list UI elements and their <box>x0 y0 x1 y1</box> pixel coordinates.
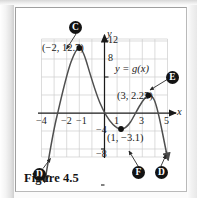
callout-f[interactable]: F <box>132 166 145 179</box>
leader-line-F <box>129 151 138 166</box>
x-tick-label--4: −4 <box>36 115 47 126</box>
figure-card: (−2, 12.7) (3, 2.25) (1, −3.1) y = g(x) … <box>15 7 187 192</box>
leader-line-E <box>150 79 168 90</box>
x-axis-label: x <box>177 106 182 117</box>
page-gutter-left-shadow <box>0 0 14 198</box>
x-tick-label-3: 3 <box>139 115 144 126</box>
y-tick-label-12: 12 <box>108 34 118 45</box>
x-tick-label-1: 1 <box>114 115 119 126</box>
figure-caption: Figure 4.5 <box>24 171 79 186</box>
y-tick-label-8: 8 <box>108 52 113 63</box>
x-tick-label--1: −1 <box>76 115 87 126</box>
callout-c[interactable]: C <box>69 21 82 34</box>
x-tick-label--2: −2 <box>61 115 72 126</box>
figure-content: (−2, 12.7) (3, 2.25) (1, −3.1) y = g(x) … <box>16 8 188 193</box>
callout-d-right[interactable]: D <box>155 166 168 179</box>
label-local-min: (1, −3.1) <box>107 132 144 143</box>
callout-e[interactable]: E <box>166 71 179 84</box>
y-tick-label--4: −4 <box>96 124 107 135</box>
label-local-max-right: (3, 2.25) <box>117 90 153 101</box>
function-curve <box>45 48 168 180</box>
page-gutter-right-shadow <box>187 0 197 198</box>
scanned-page-background: (−2, 12.7) (3, 2.25) (1, −3.1) y = g(x) … <box>0 0 197 198</box>
function-equation-label: y = g(x) <box>115 63 149 74</box>
label-local-max-left: (−2, 12.7) <box>42 42 84 53</box>
x-tick-label-5: 5 <box>164 115 169 126</box>
y-tick-label--8: −8 <box>96 148 107 159</box>
page-top-edge-shadow <box>0 0 197 5</box>
